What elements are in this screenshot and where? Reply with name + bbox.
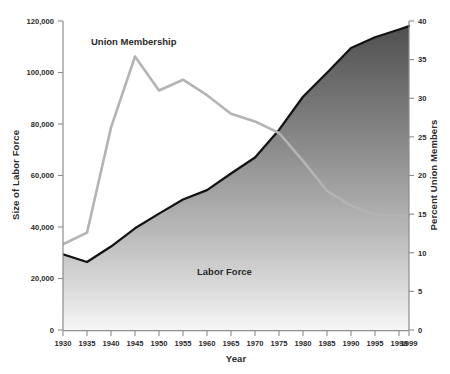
tick-label: 0 [418, 326, 422, 335]
tick-label: 40 [418, 17, 426, 26]
tick-label: 1950 [151, 339, 168, 348]
tick-label: 20 [418, 171, 426, 180]
tick-label: 20,000 [31, 274, 54, 283]
tick-label: 80,000 [31, 120, 54, 129]
tick-label: 1930 [55, 339, 72, 348]
x-axis-title: Year [226, 353, 247, 364]
chart-container: 020,00040,00060,00080,000100,000120,000 … [0, 0, 450, 374]
tick-label: 1985 [319, 339, 337, 348]
tick-label: 60,000 [31, 171, 54, 180]
tick-label: 10 [418, 249, 426, 258]
tick-label: 1940 [103, 339, 120, 348]
tick-label: 25 [418, 133, 427, 142]
labor-force-union-membership-chart: 020,00040,00060,00080,000100,000120,000 … [0, 0, 450, 374]
tick-label: 30 [418, 94, 426, 103]
tick-label: 35 [418, 55, 427, 64]
tick-label: 1980 [295, 339, 312, 348]
tick-label: 1990 [343, 339, 360, 348]
tick-label: 1970 [247, 339, 264, 348]
tick-label: 1935 [79, 339, 97, 348]
labor-force-series-label: Labor Force [197, 266, 252, 277]
tick-label: 15 [418, 210, 427, 219]
tick-label: 1945 [127, 339, 145, 348]
tick-label: 40,000 [31, 223, 54, 232]
tick-label: 1955 [175, 339, 193, 348]
tick-label: 120,000 [27, 17, 54, 26]
tick-label: 100,000 [27, 68, 54, 77]
tick-label: 1965 [223, 339, 241, 348]
tick-label: 1960 [199, 339, 216, 348]
tick-label: 1995 [367, 339, 385, 348]
tick-label: 0 [50, 326, 54, 335]
y-axis-title: Size of Labor Force [10, 130, 21, 220]
y2-axis-title: Percent Union Members [428, 120, 439, 231]
union-membership-series-label: Union Membership [91, 36, 177, 47]
tick-label: 1975 [271, 339, 289, 348]
tick-label: 1999 [401, 339, 418, 348]
